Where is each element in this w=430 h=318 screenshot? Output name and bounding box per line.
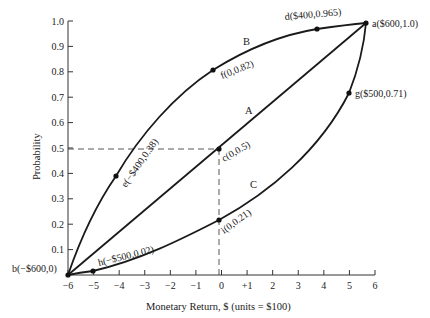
point-h xyxy=(90,268,95,273)
x-tick-label: −3 xyxy=(139,280,150,291)
y-tick-label: 0.2 xyxy=(52,219,65,230)
y-tick-label: 0.3 xyxy=(52,193,65,204)
y-tick-label: 0.4 xyxy=(52,168,65,179)
y-tick-label: 0.5 xyxy=(52,143,65,154)
point-label-b: b(−$600,0) xyxy=(12,263,57,275)
curve-label-a: A xyxy=(245,105,253,116)
x-tick-label: −4 xyxy=(114,280,125,291)
point-label-f: f(0,0.82) xyxy=(219,58,256,82)
curve-label-b: B xyxy=(243,36,250,47)
y-axis-title: Probability xyxy=(31,133,42,180)
point-i xyxy=(216,217,221,222)
y-tick-label: 0.7 xyxy=(52,92,65,103)
x-tick-label: +1 xyxy=(242,280,253,291)
x-tick-label: 2 xyxy=(270,280,275,291)
point-label-g: g($500,0.71) xyxy=(355,88,407,100)
point-f xyxy=(210,67,215,72)
x-tick-label: −5 xyxy=(88,280,99,291)
y-tick-label: 1.0 xyxy=(52,16,65,27)
x-tick-label: 5 xyxy=(347,280,352,291)
y-tick-label: 0.1 xyxy=(52,244,65,255)
point-e xyxy=(113,173,118,178)
point-label-h: h(−$500,0.02) xyxy=(97,243,156,269)
point-b xyxy=(65,272,70,277)
y-tick-label: 0.6 xyxy=(52,117,65,128)
y-tick-label: 0.9 xyxy=(52,41,65,52)
point-a xyxy=(363,20,368,25)
x-tick-label: −6 xyxy=(63,280,74,291)
utility-curve-chart: 1.00.90.80.70.60.50.40.30.20.1 −6−5−4−3−… xyxy=(0,0,430,318)
point-d xyxy=(314,26,319,31)
point-g xyxy=(346,90,351,95)
point-label-a: a($600,1.0) xyxy=(372,18,418,30)
point-label-d: d($400,0.965) xyxy=(284,6,342,23)
x-tick-label: 3 xyxy=(296,280,301,291)
y-tick-label: 0.8 xyxy=(52,66,65,77)
x-tick-label: 6 xyxy=(373,280,378,291)
curve-label-c: C xyxy=(250,179,257,190)
y-ticks: 1.00.90.80.70.60.50.40.30.20.1 xyxy=(52,16,74,256)
point-c xyxy=(216,146,221,151)
x-tick-label: 0 xyxy=(219,280,224,291)
x-tick-label: −2 xyxy=(165,280,176,291)
chart-canvas: 1.00.90.80.70.60.50.40.30.20.1 −6−5−4−3−… xyxy=(0,0,430,318)
x-tick-label: 4 xyxy=(321,280,326,291)
x-tick-label: −1 xyxy=(191,280,202,291)
x-ticks: −6−5−4−3−2−10+123456 xyxy=(63,270,378,291)
x-axis-title: Monetary Return, $ (units = $100) xyxy=(146,301,291,313)
